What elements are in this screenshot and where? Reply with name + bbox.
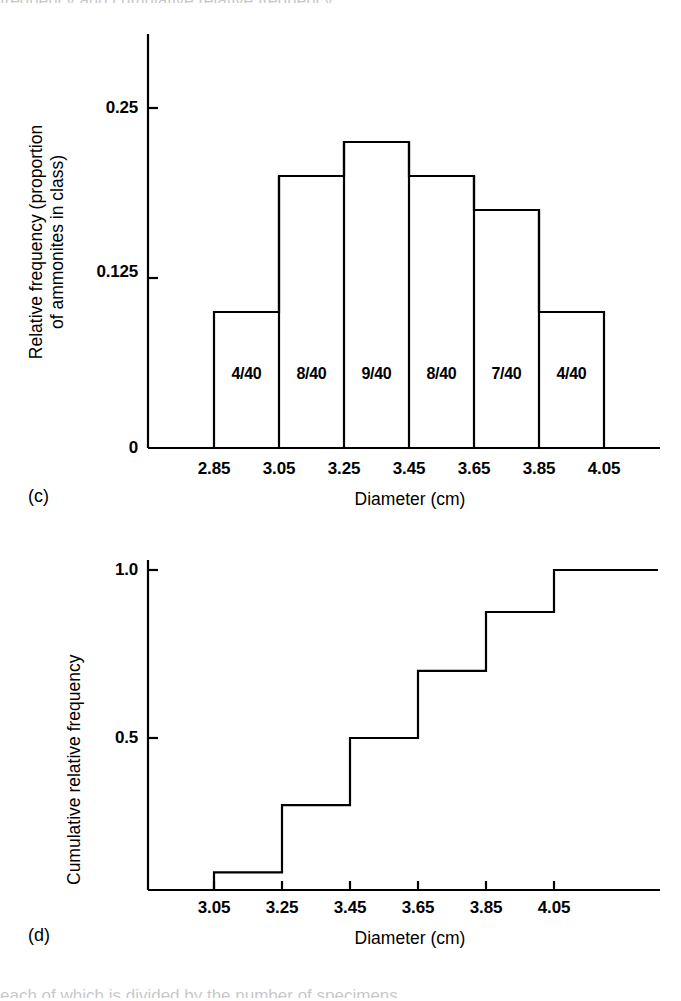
histogram-xtick-label-3.45: 3.45 [393,459,425,479]
histogram-yaxis-title-line1: Relative frequency (proportion [26,125,46,359]
histogram-xtick-label-3.85: 3.85 [523,459,555,479]
cumulative-plot-area [0,530,681,1001]
histogram-bar-label-1: 4/40 [232,365,262,383]
histogram-yaxis-title-line2: of ammonites in class) [47,155,67,329]
histogram-yaxis-title: Relative frequency (proportionof ammonit… [26,42,67,442]
cumulative-xtick-label-3.85: 3.85 [470,898,502,918]
histogram-ytick-label-0.25: 0.25 [0,98,138,118]
histogram-xtick-label-3.05: 3.05 [263,459,295,479]
histogram-bar-label-2: 8/40 [297,365,327,383]
cumulative-xtick-label-3.45: 3.45 [334,898,366,918]
histogram-ytick-label-0.125: 0.125 [0,262,138,282]
cumulative-xtick-label-3.25: 3.25 [266,898,298,918]
cumulative-ytick-label-1.0: 1.0 [0,560,138,580]
histogram-xtick-label-2.85: 2.85 [198,459,230,479]
panel-d-cumulative: 1.0 0.5 3.05 3.25 3.45 3.65 3.85 4.05 Di… [0,530,681,1001]
cumulative-step-line [214,570,658,890]
cumulative-xtick-label-3.65: 3.65 [402,898,434,918]
histogram-xaxis-title: Diameter (cm) [355,489,466,510]
histogram-bar-label-4: 8/40 [427,365,457,383]
cumulative-xtick-label-4.05: 4.05 [538,898,570,918]
histogram-bar-label-3: 9/40 [362,365,392,383]
panel-letter-d: (d) [28,925,50,946]
histogram-ytick-label-0: 0 [0,438,138,458]
histogram-bar-label-6: 4/40 [557,365,587,383]
cumulative-yaxis-title: Cumulative relative frequency [64,654,85,885]
histogram-xtick-label-3.65: 3.65 [458,459,490,479]
cumulative-xtick-label-3.05: 3.05 [198,898,230,918]
figure-root: frequency and cumulative relative freque… [0,0,681,1001]
panel-letter-c: (c) [28,486,49,507]
histogram-xtick-label-3.25: 3.25 [328,459,360,479]
cropped-bottom-text: each of which is divided by the number o… [0,986,681,998]
cumulative-xaxis-title: Diameter (cm) [355,928,466,949]
histogram-xtick-label-4.05: 4.05 [588,459,620,479]
histogram-bar-label-5: 7/40 [492,365,522,383]
panel-c-histogram: 0.25 0.125 0 2.85 3.05 3.25 3.45 3.65 3.… [0,0,681,530]
